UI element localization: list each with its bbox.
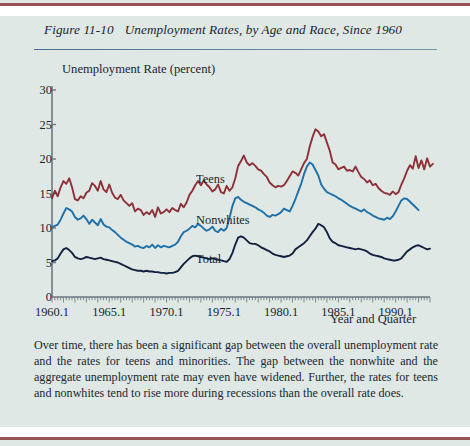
x-tick-1975.1: 1975.1 [207,305,241,320]
x-tick-1985.1: 1985.1 [321,305,355,320]
x-tick-1960.1: 1960.1 [35,305,69,320]
x-tick-1990.1: 1990.1 [379,305,413,320]
series-label-total: Total [196,252,221,267]
y-tick-labels: 051015202530 [24,56,52,326]
figure-title-text: Unemployment Rates, by Age and Race, Sin… [125,22,402,37]
page-margin-top [0,6,470,16]
figure-number: Figure 11-10 [44,22,114,37]
x-tick-1965.1: 1965.1 [92,305,126,320]
series-line-total [52,224,430,274]
figure-caption: Over time, there has been a significant … [34,338,438,402]
figure-title: Figure 11-10Unemployment Rates, by Age a… [44,22,402,38]
page-rule-bottom [0,437,470,440]
y-tick-30: 30 [40,84,52,96]
y-tick-10: 10 [40,222,52,234]
y-tick-0: 0 [46,291,52,303]
x-tick-1970.1: 1970.1 [149,305,183,320]
y-tick-5: 5 [46,256,52,268]
figure-page: Figure 11-10Unemployment Rates, by Age a… [0,0,470,446]
y-tick-15: 15 [40,187,52,199]
y-axis-label: Unemployment Rate (percent) [62,62,215,77]
y-tick-20: 20 [40,153,52,165]
x-tick-1980.1: 1980.1 [264,305,298,320]
chart-area: Unemployment Rate (percent) Year and Qua… [0,56,470,326]
title-divider [34,49,437,50]
series-line-teens [52,129,433,217]
y-tick-25: 25 [40,118,52,130]
chart-plot [0,56,470,326]
series-label-teens: Teens [196,172,225,187]
series-label-nonwhites: Nonwhites [196,213,250,228]
page-margin-bottom [0,427,470,437]
